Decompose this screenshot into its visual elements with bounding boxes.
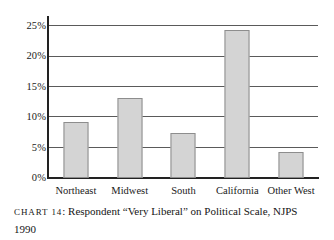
y-axis-tick-label: 5% xyxy=(2,143,46,153)
bar-slot xyxy=(264,17,318,178)
bar-slot xyxy=(210,17,264,178)
caption-label: Chart 14 xyxy=(14,207,62,217)
y-axis-tick-label: 20% xyxy=(2,51,46,61)
caption-line-2: 1990 xyxy=(14,221,330,238)
caption-text: Respondent “Very Liberal” on Political S… xyxy=(68,205,297,217)
y-axis-tick-label: 10% xyxy=(2,112,46,122)
bar xyxy=(279,152,304,178)
bar-series xyxy=(49,17,318,178)
bar-slot xyxy=(157,17,211,178)
chart-figure: 0%5%10%15%20%25% NortheastMidwestSouthCa… xyxy=(0,0,334,240)
figure-caption: Chart 14: Respondent “Very Liberal” on P… xyxy=(14,203,330,238)
x-axis-tick-label: Other West xyxy=(259,184,323,197)
bar xyxy=(63,122,88,178)
x-axis-tick-labels: NortheastMidwestSouthCaliforniaOther Wes… xyxy=(49,184,323,200)
y-axis-tick-label: 25% xyxy=(2,21,46,31)
bar-slot xyxy=(49,17,103,178)
bar-slot xyxy=(103,17,157,178)
bar xyxy=(117,98,142,178)
bar xyxy=(171,133,196,178)
y-axis-tick-label: 15% xyxy=(2,82,46,92)
bar xyxy=(225,30,250,178)
y-axis-tick-label: 0% xyxy=(2,173,46,183)
